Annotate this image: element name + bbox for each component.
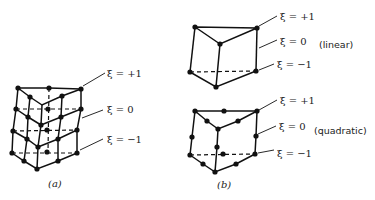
figure-b-quadratic-nodes [187, 108, 259, 174]
figure-a-wedge [9, 73, 105, 172]
figure-b-linear-label-bottom: ξ = −1 [277, 59, 312, 70]
figure-a-caption: (a) [48, 178, 62, 189]
figure-b-quadratic-label-mid: ξ = 0 [279, 121, 306, 132]
figure-b-linear-label-top: ξ = +1 [280, 11, 315, 22]
figure-b-caption: (b) [217, 179, 231, 190]
figure-a-label-bottom: ξ = −1 [107, 134, 142, 145]
figure-b-linear-type: (linear) [319, 39, 353, 50]
figure-b-quadratic-label-top: ξ = +1 [280, 95, 315, 106]
figure-b-quadratic-wedge [187, 100, 277, 175]
figure-b-linear-wedge [187, 16, 277, 90]
figure-b-linear-label-mid: ξ = 0 [280, 36, 307, 47]
diagram-canvas: ξ = +1 ξ = 0 ξ = −1 (a) ξ = +1 ξ = 0 ξ =… [0, 0, 375, 200]
figure-a-label-mid: ξ = 0 [107, 104, 134, 115]
figure-a-label-top: ξ = +1 [107, 68, 142, 79]
figure-b-quadratic-label-bottom: ξ = −1 [277, 148, 312, 159]
figure-b-quadratic-type: (quadratic) [314, 125, 367, 136]
